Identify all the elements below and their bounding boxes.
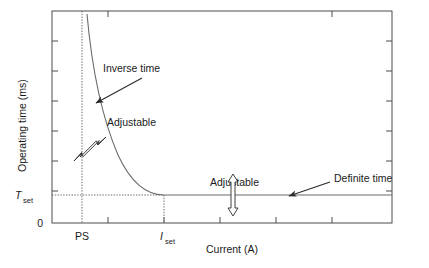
inverse-time-label: Inverse time [103, 62, 160, 74]
iset-symbol: I [160, 230, 163, 242]
tset-subscript: set [23, 196, 34, 205]
definite-time-label: Definite time [334, 172, 393, 184]
adjustable-curve-label: Adjustable [107, 116, 156, 128]
y-axis-title: Operating time (ms) [16, 79, 28, 172]
chart-container: Inverse time Adjustable Adjustable Defin… [0, 0, 429, 268]
chart-background [0, 0, 429, 268]
y-zero-label: 0 [37, 217, 43, 229]
protection-relay-characteristic-chart: Inverse time Adjustable Adjustable Defin… [0, 0, 429, 268]
iset-subscript: set [165, 237, 176, 246]
x-axis-title: Current (A) [206, 243, 258, 255]
ps-axis-label: PS [75, 230, 89, 242]
